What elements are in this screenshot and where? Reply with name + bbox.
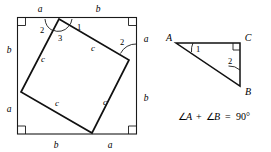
edge-label-top-right: b — [96, 4, 101, 14]
figure-canvas: a b a b b a b a c c c c 2 3 1 2 — [0, 0, 271, 152]
edge-label-left-top: b — [7, 45, 12, 55]
equation-var-2: B — [214, 111, 220, 122]
edge-label-right-bottom: b — [144, 93, 149, 103]
inner-side-label-lower-left: c — [55, 98, 59, 108]
outer-square-outline — [18, 18, 137, 135]
angle-arc-1-at-a — [191, 43, 193, 52]
angle-arc-2-at-b — [229, 66, 241, 70]
equation-equals: = — [225, 111, 231, 122]
inner-side-label-lower-right: c — [103, 97, 107, 107]
angle-label-3-top-center: 3 — [58, 33, 62, 43]
angle-label-2-right-side: 2 — [120, 37, 124, 47]
edge-label-bottom-right: a — [108, 140, 113, 150]
vertex-label-b: B — [245, 86, 251, 97]
equation-group: ∠ A + ∠ B = 90° — [178, 111, 250, 122]
vertex-label-c: C — [245, 32, 252, 43]
vertex-label-a: A — [165, 32, 173, 43]
angle-label-1-top-right: 1 — [77, 22, 81, 32]
right-angle-mark-top-right — [129, 18, 137, 26]
inner-side-label-upper-left: c — [41, 54, 45, 64]
angle-label-2-top-left: 2 — [40, 25, 44, 35]
equation-plus: + — [196, 111, 202, 122]
angle-label-2-at-b: 2 — [228, 56, 232, 66]
right-angle-mark-at-c — [233, 43, 240, 50]
angle-label-1-at-a: 1 — [196, 44, 200, 54]
equation-value: 90° — [236, 111, 250, 122]
inner-side-label-upper-right: c — [91, 43, 95, 53]
right-angle-mark-bottom-right — [129, 126, 137, 134]
inner-square-outline — [21, 19, 129, 133]
right-angle-mark-bottom-left — [18, 126, 26, 134]
edge-label-left-bottom: a — [7, 104, 12, 114]
edge-label-right-top: a — [144, 34, 149, 44]
edge-label-bottom-left: b — [54, 140, 59, 150]
outer-square-group — [18, 18, 137, 135]
equation-var-1: A — [185, 111, 193, 122]
inner-square-group — [21, 19, 129, 133]
angle-arc-2-top-left — [45, 19, 53, 31]
right-angle-mark-top-left — [18, 18, 26, 26]
edge-label-top-left: a — [38, 4, 43, 14]
geometry-figure-svg: a b a b b a b a c c c c 2 3 1 2 — [0, 0, 271, 152]
